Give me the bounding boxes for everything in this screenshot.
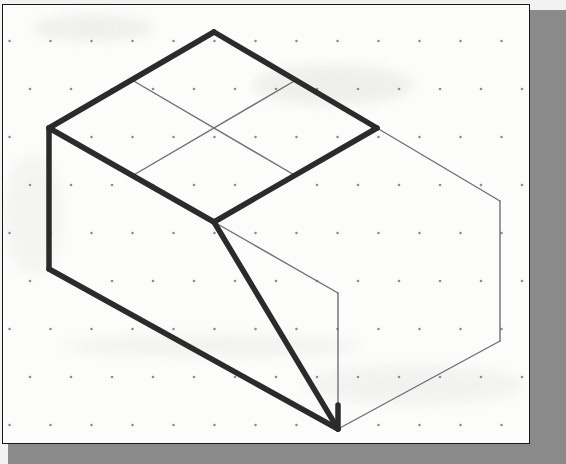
right-face-top-back-edge xyxy=(377,128,500,201)
heavy-edge-group xyxy=(49,32,377,429)
bottom-left-slope-edge xyxy=(49,269,338,429)
drawing-sheet xyxy=(2,4,530,444)
right-face-bottom-edge xyxy=(338,341,500,429)
thin-edge-group xyxy=(132,80,500,429)
isometric-solid-figure xyxy=(3,5,530,444)
incline-face-left-edge xyxy=(214,222,338,429)
drawing-page xyxy=(0,0,566,464)
